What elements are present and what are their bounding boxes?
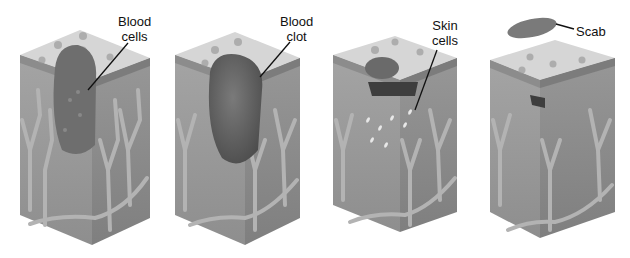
wound-healing-diagram: Blood cells Blood clot Skin cells Scab <box>0 0 630 258</box>
block-stage-3 <box>333 36 457 232</box>
label-line: Blood <box>118 14 151 29</box>
label-line: cells <box>432 33 458 48</box>
label-line: Skin <box>432 18 458 33</box>
block-stage-4 <box>490 14 615 238</box>
label-scab: Scab <box>576 24 606 39</box>
block-stage-2 <box>175 32 300 245</box>
label-line: Scab <box>576 24 606 39</box>
label-blood-clot: Blood clot <box>280 14 313 44</box>
block-stage-1 <box>20 30 150 245</box>
label-line: cells <box>118 29 151 44</box>
scab-shape <box>506 14 559 42</box>
label-line: clot <box>280 29 313 44</box>
label-blood-cells: Blood cells <box>118 14 151 44</box>
label-skin-cells: Skin cells <box>432 18 458 48</box>
label-line: Blood <box>280 14 313 29</box>
